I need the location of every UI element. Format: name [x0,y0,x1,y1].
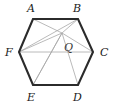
vertex-label-A: A [27,3,35,14]
hexagon-figure: A B C D E F Q [0,0,115,108]
hexagon-diagram-svg [0,0,115,108]
vertex-label-F: F [5,47,13,58]
segment-B-Q [62,19,78,33]
vertex-label-E: E [27,92,35,103]
interior-point-label-Q: Q [64,42,73,53]
vertex-label-D: D [73,92,82,103]
segment-E-B [33,33,62,85]
vertex-label-B: B [73,3,81,14]
segment-A-Q [33,19,62,33]
vertex-label-C: C [100,47,108,58]
